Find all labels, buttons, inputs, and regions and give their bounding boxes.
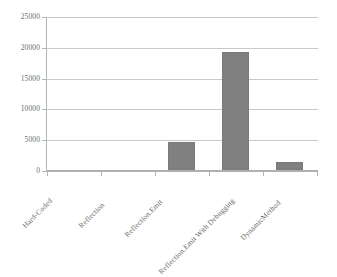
y-tick-mark-20000 (42, 48, 47, 49)
y-tick-label-5000: 5000 (2, 136, 40, 144)
y-tick-label-15000: 15000 (2, 75, 40, 83)
y-tick-mark-10000 (42, 109, 47, 110)
gridline-25000 (47, 17, 318, 18)
y-axis-line (46, 17, 47, 172)
bar-dynamicmethod[interactable] (276, 162, 303, 170)
gridline-5000 (47, 140, 318, 141)
gridline-10000 (47, 109, 318, 110)
x-label-dynamicmethod: DynamicMethod (239, 198, 283, 242)
x-label-reflection: Reflection (77, 200, 107, 230)
y-tick-label-20000: 20000 (2, 44, 40, 52)
bar-reflection-emit-with-debugging[interactable] (222, 52, 249, 170)
x-label-reflection-emit-with-debugging: Reflection.Emit With Debugging (157, 196, 237, 276)
y-tick-mark-5000 (42, 140, 47, 141)
x-tick-mark-2 (155, 172, 156, 176)
gridline-15000 (47, 79, 318, 80)
x-label-reflection-emit: Reflection.Emit (123, 197, 165, 239)
x-tick-mark-3 (209, 172, 210, 176)
plot-area (47, 17, 318, 171)
bar-chart: 25000 20000 15000 10000 5000 0 Hard-Code… (0, 0, 337, 277)
x-tick-mark-0 (47, 172, 48, 176)
y-tick-mark-15000 (42, 79, 47, 80)
gridline-20000 (47, 48, 318, 49)
y-tick-mark-25000 (42, 17, 47, 18)
y-axis-tick-labels: 25000 20000 15000 10000 5000 0 (0, 0, 40, 277)
x-tick-mark-1 (101, 172, 102, 176)
y-tick-label-10000: 10000 (2, 105, 40, 113)
y-tick-label-25000: 25000 (2, 13, 40, 21)
x-tick-mark-5 (317, 172, 318, 176)
x-tick-mark-4 (263, 172, 264, 176)
y-tick-label-0: 0 (2, 167, 40, 175)
x-axis-line (46, 171, 318, 172)
bar-reflection-emit[interactable] (168, 142, 195, 170)
